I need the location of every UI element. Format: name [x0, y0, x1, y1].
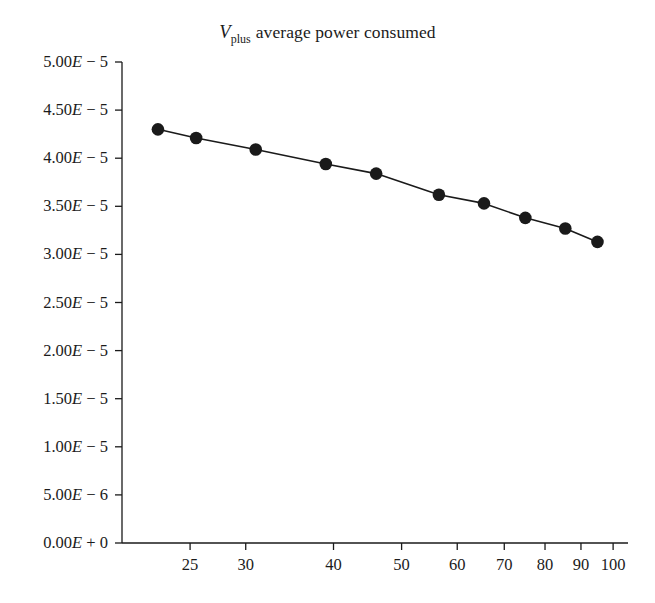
y-axis-tick-label: 5.00E − 6 — [0, 485, 108, 505]
x-axis-tick-label: 60 — [449, 555, 466, 575]
y-axis-tick-label: 5.00E − 5 — [0, 52, 108, 72]
y-axis-ticks — [115, 62, 122, 543]
y-axis-tick-label: 3.00E − 5 — [0, 244, 108, 264]
x-axis-tick-label: 30 — [237, 555, 254, 575]
data-point-marker — [319, 158, 332, 171]
y-axis-tick-label: 1.00E − 5 — [0, 437, 108, 457]
x-axis-tick-label: 70 — [496, 555, 513, 575]
chart-figure: Vplusaverage power consumed 0.00E + 05.0… — [0, 0, 655, 603]
data-point-marker — [152, 123, 165, 136]
data-point-marker — [591, 236, 604, 249]
data-point-marker — [249, 143, 262, 156]
data-point-marker — [433, 188, 446, 201]
x-axis-tick-label: 25 — [182, 555, 199, 575]
y-axis-tick-label: 4.50E − 5 — [0, 100, 108, 120]
data-point-marker — [519, 212, 532, 225]
y-axis-tick-label: 2.00E − 5 — [0, 341, 108, 361]
x-axis-tick-label: 100 — [601, 555, 626, 575]
data-point-marker — [559, 222, 572, 235]
y-axis-tick-label: 2.50E − 5 — [0, 293, 108, 313]
y-axis-tick-label: 3.50E − 5 — [0, 196, 108, 216]
y-axis-tick-label: 4.00E − 5 — [0, 148, 108, 168]
y-axis-tick-label: 1.50E − 5 — [0, 389, 108, 409]
x-axis-ticks — [190, 543, 613, 550]
data-point-marker — [478, 197, 491, 210]
data-series-line — [158, 129, 598, 242]
x-axis-tick-label: 80 — [537, 555, 554, 575]
x-axis-tick-label: 50 — [393, 555, 410, 575]
y-axis-tick-label: 0.00E + 0 — [0, 533, 108, 553]
data-point-marker — [190, 132, 203, 145]
x-axis-tick-label: 90 — [573, 555, 590, 575]
data-point-marker — [370, 167, 383, 180]
x-axis-tick-label: 40 — [325, 555, 342, 575]
